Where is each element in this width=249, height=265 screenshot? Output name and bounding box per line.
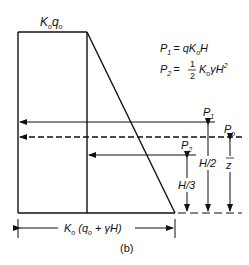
h3-label: H/3 bbox=[178, 179, 196, 191]
svg-text:KoγH2: KoγH2 bbox=[199, 62, 228, 77]
lateral-pressure-diagram: Koqo P1= qKoH P2= 1 2 KoγH2 P1 Po P2 H/3 bbox=[0, 0, 249, 265]
figure-caption: (b) bbox=[120, 242, 133, 254]
svg-text:2: 2 bbox=[190, 71, 195, 81]
h2-label: H/2 bbox=[199, 157, 216, 169]
base-pressure-label: Ko (qo + γH) bbox=[64, 222, 122, 236]
p1-label: P1 bbox=[203, 106, 214, 120]
surcharge-pressure-label: Koqo bbox=[40, 15, 63, 30]
p2-label: P2 bbox=[181, 139, 192, 153]
zbar-label: z bbox=[225, 159, 232, 171]
equation-p1: P1= qKoH bbox=[160, 42, 208, 56]
svg-text:1: 1 bbox=[190, 59, 195, 69]
equation-p2: P2= 1 2 KoγH2 bbox=[160, 59, 228, 81]
svg-text:P2=: P2= bbox=[160, 63, 180, 77]
p0-label: Po bbox=[224, 123, 235, 137]
